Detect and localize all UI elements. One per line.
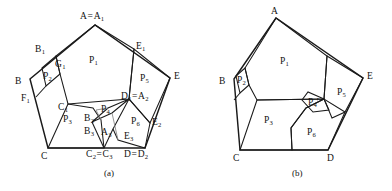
vertex-label-C2-C3: C2=C3 — [86, 150, 112, 160]
vertex-label-D-b: D — [327, 154, 334, 164]
vertex-label-E-b: E — [367, 72, 373, 82]
vertex-label-D1-A2: D1=A2 — [121, 92, 148, 102]
vertex-label-B2: B2 — [84, 114, 94, 124]
region-label-P6: P6 — [131, 117, 140, 127]
region-label-P3: P3 — [63, 115, 72, 125]
vertex-label-E2: E2 — [152, 118, 161, 128]
panel-caption-a: (a) — [104, 168, 114, 178]
vertex-label-E3: E3 — [124, 132, 133, 142]
region-label-P3-b: P3 — [264, 116, 273, 126]
vertex-label-A3: A3 — [101, 128, 111, 138]
vertex-label-C1: C1 — [58, 103, 68, 113]
region-label-P1: P1 — [89, 56, 98, 66]
vertex-label-B: B — [15, 77, 21, 87]
region-label-P1-b: P1 — [280, 57, 289, 67]
region-p3-a — [48, 104, 104, 148]
vertex-label-C: C — [41, 152, 47, 162]
vertex-label-D-D2: D=D2 — [124, 150, 148, 160]
vertex-label-B-b: B — [219, 77, 225, 87]
panel-a — [30, 25, 170, 148]
vertex-label-B1: B1 — [35, 45, 45, 55]
region-label-P2: P2 — [43, 72, 52, 82]
vertex-label-A-A1: A=A1 — [80, 12, 104, 22]
outer-pentagon-b — [234, 18, 363, 150]
region-label-P5: P5 — [140, 74, 149, 84]
vertex-label-A-b: A — [271, 7, 278, 17]
fold-e3-a — [112, 113, 118, 140]
seg-f1-a — [36, 86, 46, 97]
region-label-P2-b: P2 — [237, 76, 246, 86]
vertex-label-C-b: C — [233, 154, 239, 164]
region-label-P4prime-b: P4′ — [308, 98, 319, 108]
figure-root: A=A1B1E1EBG1F1C1D1=A2CC2=C3D=D2B2B3A3E2E… — [0, 0, 392, 191]
region-label-P4: P4 — [101, 105, 110, 115]
vertex-label-E1: E1 — [136, 42, 145, 52]
vertex-label-G1: G1 — [55, 60, 65, 70]
vertex-label-E: E — [174, 72, 180, 82]
region-label-P6-b: P6 — [307, 128, 316, 138]
vertex-label-B3: B3 — [84, 127, 94, 137]
region-label-P5-b: P5 — [337, 88, 346, 98]
vertex-label-F1: F1 — [21, 94, 30, 104]
panel-caption-b: (b) — [292, 168, 303, 178]
panel-b — [234, 18, 363, 150]
region-p5-a — [129, 49, 170, 123]
